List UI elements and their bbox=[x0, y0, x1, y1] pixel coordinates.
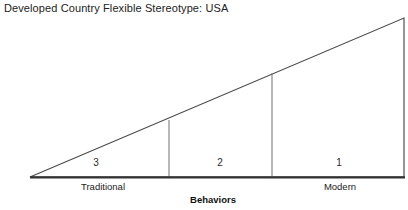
wedge-triangle-shape bbox=[30, 18, 404, 177]
axis-title-behaviors: Behaviors bbox=[190, 194, 236, 205]
axis-label-modern: Modern bbox=[324, 181, 356, 192]
zone-label-3: 3 bbox=[93, 158, 99, 168]
zone-label-1: 1 bbox=[336, 158, 342, 168]
stereotype-diagram-figure: Developed Country Flexible Stereotype: U… bbox=[0, 0, 408, 210]
triangle-wedge-graphic bbox=[0, 0, 408, 210]
axis-label-traditional: Traditional bbox=[81, 181, 125, 192]
zone-label-2: 2 bbox=[217, 158, 223, 168]
